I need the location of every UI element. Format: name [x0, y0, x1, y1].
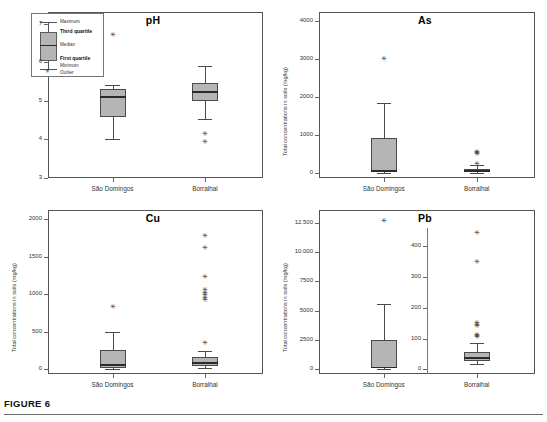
- whisker-cap-max: [105, 332, 119, 333]
- y-tick-label: 0: [275, 365, 313, 371]
- outlier-marker: ✳: [473, 334, 480, 339]
- outlier-marker: ✳: [201, 297, 208, 302]
- inner-y-tick-mark: [423, 308, 427, 309]
- outlier-marker: ✳: [473, 151, 480, 156]
- y-tick-label: 500: [4, 328, 42, 334]
- y-axis-title-cu: Total concentrations in soils (mg/kg): [11, 263, 17, 352]
- inner-y-tick-label: 0: [391, 365, 421, 371]
- y-tick-mark: [44, 219, 48, 220]
- box-iqr: [100, 89, 126, 117]
- y-tick-label: 10.000: [275, 248, 313, 254]
- y-tick-label: 4: [4, 135, 42, 141]
- whisker-cap-min: [470, 173, 484, 174]
- whisker-upper: [384, 103, 385, 138]
- y-tick-label: 7: [4, 20, 42, 26]
- x-axis-category-label: São Domingos: [68, 381, 158, 388]
- legend-label-median: Median: [60, 42, 75, 47]
- outlier-marker: ✳: [380, 218, 387, 223]
- panel-title-cu: Cu: [118, 212, 188, 224]
- legend-median-line: [40, 45, 57, 46]
- y-tick-label: 4000: [275, 17, 313, 23]
- y-tick-mark: [315, 252, 319, 253]
- y-tick-mark: [315, 97, 319, 98]
- whisker-cap-max: [377, 103, 391, 104]
- inner-y-tick-mark: [423, 369, 427, 370]
- y-tick-mark: [44, 62, 48, 63]
- inner-y-tick-mark: [423, 246, 427, 247]
- whisker-upper: [205, 66, 206, 83]
- legend-label-minimum: Minimum: [60, 63, 79, 68]
- legend-label-third-quartile: Third quartile: [60, 28, 92, 34]
- y-tick-label: 12.500: [275, 219, 313, 225]
- legend-label-first-quartile: First quartile: [60, 55, 90, 61]
- whisker-cap-min: [198, 368, 212, 369]
- whisker-cap-max: [470, 343, 484, 344]
- y-tick-mark: [44, 101, 48, 102]
- panel-title-ph: pH: [118, 14, 188, 26]
- box-iqr: [371, 138, 397, 172]
- figure-caption: FIGURE 6: [4, 398, 50, 409]
- panel-title-pb: Pb: [390, 212, 460, 224]
- y-tick-label: 2000: [4, 215, 42, 221]
- inner-y-tick-mark: [423, 277, 427, 278]
- figure-container: pH ✳ Maximum Third quartile Median First…: [0, 0, 547, 422]
- caption-rule: [4, 414, 543, 415]
- inner-y-tick-label: 400: [391, 242, 421, 248]
- outlier-marker: ✳: [473, 161, 480, 166]
- x-tick-mark: [477, 374, 478, 378]
- outlier-marker: ✳: [473, 230, 480, 235]
- whisker-cap-min: [470, 364, 484, 365]
- y-tick-label: 0: [4, 365, 42, 371]
- legend-outlier-marker: ✳: [45, 67, 50, 74]
- median-line: [100, 364, 126, 366]
- legend-label-maximum: Maximum: [60, 19, 80, 24]
- box-iqr: [371, 340, 397, 368]
- x-axis-category-label: Borralhal: [432, 185, 522, 192]
- plot-area-as: [319, 12, 535, 178]
- y-tick-label: 3000: [275, 55, 313, 61]
- y-tick-mark: [44, 332, 48, 333]
- panel-pb: Pb Total concentrations in soils (mg/kg)…: [274, 200, 547, 395]
- y-tick-mark: [315, 311, 319, 312]
- y-tick-label: 1000: [4, 290, 42, 296]
- x-tick-mark: [477, 178, 478, 182]
- y-axis-title-as: Total concentrations in soils (mg/kg): [282, 67, 288, 156]
- x-axis-category-label: São Domingos: [339, 185, 429, 192]
- x-axis-category-label: Borralhal: [432, 381, 522, 388]
- x-axis-category-label: Borralhal: [160, 381, 250, 388]
- whisker-cap-max: [198, 351, 212, 352]
- median-line: [371, 170, 397, 172]
- outlier-marker: ✳: [201, 131, 208, 136]
- y-tick-label: 2500: [275, 336, 313, 342]
- legend-box: [40, 32, 57, 61]
- x-tick-mark: [205, 374, 206, 378]
- legend-maximum-whisker: [48, 22, 49, 32]
- y-tick-mark: [315, 173, 319, 174]
- whisker-cap-max: [105, 85, 119, 86]
- outlier-marker: ✳: [473, 323, 480, 328]
- y-tick-mark: [315, 340, 319, 341]
- y-tick-label: 7500: [275, 277, 313, 283]
- outlier-marker: ✳: [201, 139, 208, 144]
- whisker-cap-min: [105, 369, 119, 370]
- whisker-cap-min: [198, 119, 212, 120]
- whisker-lower: [113, 117, 114, 138]
- x-axis-category-label: São Domingos: [68, 185, 158, 192]
- panel-cu: Cu Total concentrations in soils (mg/kg)…: [0, 200, 273, 395]
- y-tick-mark: [44, 294, 48, 295]
- outlier-marker: ✳: [201, 245, 208, 250]
- inner-y-axis-line: [427, 228, 428, 374]
- x-tick-mark: [384, 178, 385, 182]
- y-tick-label: 5000: [275, 307, 313, 313]
- y-tick-mark: [315, 369, 319, 370]
- x-tick-mark: [113, 178, 114, 182]
- outlier-marker: ✳: [201, 274, 208, 279]
- y-tick-mark: [44, 139, 48, 140]
- y-tick-label: 5: [4, 97, 42, 103]
- median-line: [464, 170, 490, 172]
- whisker-lower: [205, 101, 206, 120]
- x-tick-mark: [384, 374, 385, 378]
- median-line: [464, 357, 490, 359]
- y-tick-label: 6: [4, 58, 42, 64]
- whisker-cap-min: [377, 173, 391, 174]
